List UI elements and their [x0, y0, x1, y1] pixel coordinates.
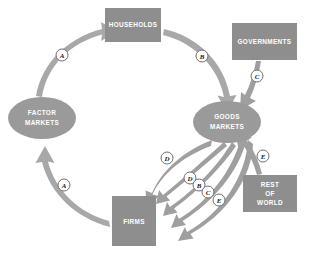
governments-label: GOVERNMENTS [238, 38, 292, 45]
badge-a-top[interactable]: A [56, 49, 68, 61]
rest-of-world-label-line3: WORLD [257, 199, 283, 206]
badge-e-lower-text: E [216, 197, 222, 205]
flow-canvas: HOUSEHOLDS GOVERNMENTS FACTOR MARKETS GO… [0, 0, 310, 255]
node-households[interactable]: HOUSEHOLDS [105, 8, 161, 42]
circular-flow-diagram: HOUSEHOLDS GOVERNMENTS FACTOR MARKETS GO… [0, 0, 310, 255]
badge-e-rest-of-world[interactable]: E [257, 150, 269, 162]
node-rest-of-world[interactable]: REST OF WORLD [243, 175, 297, 212]
factor-markets-label-line1: FACTOR [28, 109, 56, 116]
arrow-households-to-goods [163, 29, 237, 112]
arrow-goods-to-firms-c [171, 141, 245, 228]
badge-c-lower-text: C [206, 189, 211, 197]
factor-markets-label-line2: MARKETS [25, 119, 59, 126]
badge-e-lower[interactable]: E [213, 194, 225, 206]
badge-c-governments[interactable]: C [251, 70, 263, 82]
badge-a-top-text: A [59, 52, 65, 60]
firms-label: FIRMS [123, 218, 145, 225]
badge-b-top[interactable]: B [196, 50, 208, 62]
node-firms[interactable]: FIRMS [112, 196, 156, 246]
arrow-firms-to-factor [36, 146, 111, 227]
households-label: HOUSEHOLDS [109, 21, 158, 28]
node-goods-markets[interactable]: GOODS MARKETS [193, 101, 261, 143]
node-governments[interactable]: GOVERNMENTS [232, 23, 297, 60]
badge-d-upper[interactable]: D [161, 152, 173, 164]
arrow-factor-to-households [36, 22, 117, 97]
rest-of-world-label-line1: REST [261, 181, 279, 188]
badge-e-rest-of-world-text: E [260, 153, 266, 161]
badge-b-top-text: B [199, 53, 205, 61]
badge-c-lower[interactable]: C [202, 186, 214, 198]
badge-a-bottom-text: A [61, 182, 67, 190]
badge-a-bottom[interactable]: A [58, 179, 70, 191]
node-factor-markets[interactable]: FACTOR MARKETS [8, 97, 76, 139]
goods-markets-label-line1: GOODS [214, 113, 240, 120]
rest-of-world-label-line2: OF [265, 190, 275, 197]
badge-b-lower-text: B [196, 182, 202, 190]
badge-c-governments-text: C [255, 73, 260, 81]
badge-d-upper-text: D [163, 155, 169, 163]
badge-d-lower-text: D [186, 175, 192, 183]
arrow-governments-to-goods [240, 61, 261, 110]
goods-markets-label-line2: MARKETS [210, 123, 244, 130]
